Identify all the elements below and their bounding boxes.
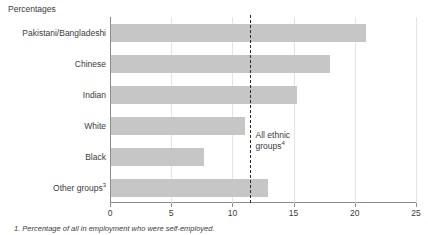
footnote-marker: 4 bbox=[282, 140, 285, 146]
x-axis-tick-label: 25 bbox=[411, 208, 420, 218]
reference-line-all-ethnic-groups bbox=[250, 15, 251, 203]
x-axis-tick bbox=[355, 203, 356, 207]
bar bbox=[111, 179, 268, 197]
x-axis-tick bbox=[232, 203, 233, 207]
gridline bbox=[171, 17, 172, 203]
reference-line-annotation: All ethnicgroups4 bbox=[256, 130, 291, 152]
footnote: 1. Percentage of all in employment who w… bbox=[14, 224, 215, 233]
annotation-line-2: groups4 bbox=[256, 141, 291, 152]
gridline bbox=[232, 17, 233, 203]
x-axis-tick-label: 10 bbox=[228, 208, 237, 218]
footnote-marker: 3 bbox=[103, 182, 106, 188]
bar bbox=[111, 55, 330, 73]
category-label: Chinese bbox=[0, 59, 106, 69]
bar bbox=[111, 148, 204, 166]
gridline bbox=[355, 17, 356, 203]
x-axis-tick-label: 20 bbox=[350, 208, 359, 218]
x-axis-tick-label: 5 bbox=[169, 208, 174, 218]
axis-title-percentages: Percentages bbox=[8, 4, 56, 14]
bar bbox=[111, 117, 245, 135]
x-axis-tick-label: 0 bbox=[108, 208, 113, 218]
plot-area bbox=[110, 17, 416, 203]
category-label: Indian bbox=[0, 90, 106, 100]
x-axis-tick-label: 15 bbox=[289, 208, 298, 218]
bar bbox=[111, 24, 366, 42]
category-label: Black bbox=[0, 152, 106, 162]
x-axis-tick bbox=[110, 203, 111, 207]
y-axis-line bbox=[110, 17, 111, 203]
x-axis-tick bbox=[294, 203, 295, 207]
x-axis-line bbox=[110, 202, 416, 203]
bar bbox=[111, 86, 297, 104]
x-axis-tick bbox=[171, 203, 172, 207]
gridline bbox=[294, 17, 295, 203]
x-axis-tick bbox=[416, 203, 417, 207]
chart-container: Percentages 1. Percentage of all in empl… bbox=[0, 0, 428, 235]
category-label: Pakistani/Bangladeshi bbox=[0, 28, 106, 38]
gridline bbox=[416, 17, 417, 203]
category-label: Other groups3 bbox=[0, 183, 106, 193]
category-label: White bbox=[0, 121, 106, 131]
